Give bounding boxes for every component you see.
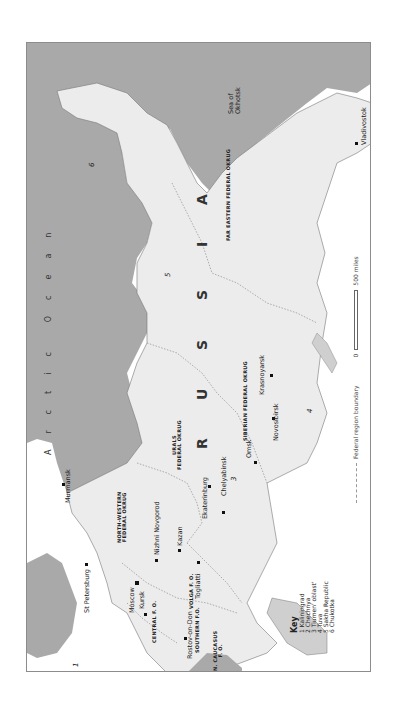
city-murmansk: Murmansk	[65, 469, 72, 503]
map-frame: ArcticOcean Sea ofOkhotsk R U S S I A NO…	[26, 42, 371, 672]
city-rostov-on-don: Rostov-on-Don	[187, 611, 194, 659]
kazan-marker	[178, 549, 181, 552]
russia-letter-s1: S	[195, 340, 209, 350]
key-item: 6 Chukotka	[329, 581, 335, 633]
city-chelyabinsk: Chelyabinsk	[221, 457, 228, 497]
sea-of-okhotsk-label: Sea ofOkhotsk	[228, 87, 241, 114]
moscow-marker	[135, 581, 139, 585]
okrug-southern: SOUTHERN F.O.	[195, 607, 200, 653]
russia-letter-u: U	[195, 389, 209, 400]
okrug-central: CENTRAL F. O.	[152, 601, 157, 643]
russia-letter-a: A	[195, 194, 209, 205]
togliatti-marker	[197, 561, 200, 564]
okrug-urals: URALSFEDERAL OKRUG	[172, 420, 182, 470]
arctic-ocean-label: ArcticOcean	[45, 217, 53, 455]
city-togliatti: Togliatti	[195, 574, 202, 599]
krasnoyarsk-marker	[270, 374, 273, 377]
city-vladivostok: Vladivostok	[361, 107, 368, 145]
region-number-1: 1	[73, 663, 80, 667]
city-nizhni-novgorod: Nizhni Novgorod	[154, 501, 161, 555]
kursk-marker	[144, 613, 147, 616]
city-st-petersburg: St Petersburg	[84, 569, 91, 613]
okrug-siberian: SIBERIAN FEDERAL OKRUG	[243, 361, 248, 441]
scale-bar	[354, 290, 358, 350]
region-number-3: 3	[231, 477, 238, 481]
map-key: Key 1 Kaliningrad 2 Chechnya 3 Tiumen' o…	[291, 581, 335, 633]
city-kursk: Kursk	[139, 591, 146, 609]
city-krasnoyarsk: Krasnoyarsk	[259, 355, 266, 395]
stpetersburg-marker	[85, 563, 88, 566]
boundary-line-sample	[356, 463, 357, 503]
map-legend: Federal region boundary 0 500 miles	[353, 256, 359, 503]
chelyabinsk-marker	[222, 511, 225, 514]
omsk-marker	[254, 461, 257, 464]
scale-start: 0	[353, 354, 359, 358]
region-number-5: 5	[165, 273, 172, 277]
city-moscow: Moscow	[129, 587, 136, 613]
city-novosibirsk: Novosibirsk	[273, 403, 280, 441]
russia-letter-s2: S	[195, 290, 209, 300]
russia-letter-r: R	[195, 438, 209, 449]
boundary-legend-label: Federal region boundary	[353, 385, 359, 459]
russia-letter-i: I	[195, 242, 209, 247]
region-number-4: 4	[307, 409, 314, 413]
scale-end: 500 miles	[353, 256, 359, 285]
vladivostok-marker	[355, 142, 358, 145]
city-kazan: Kazan	[177, 526, 184, 546]
city-ekaterinburg: Ekaterinburg	[202, 477, 209, 519]
okrug-north-caucasus: N. CAUCASUSF. O.	[213, 631, 223, 671]
okrug-far-eastern: FAR EASTERN FEDERAL OKRUG	[226, 149, 231, 241]
okrug-northwestern: NORTH-WESTERNFEDERAL OKRUG	[117, 492, 127, 544]
region-number-6: 6	[89, 163, 96, 167]
city-omsk: Omsk	[246, 439, 253, 458]
nizhni-novgorod-marker	[155, 559, 158, 562]
